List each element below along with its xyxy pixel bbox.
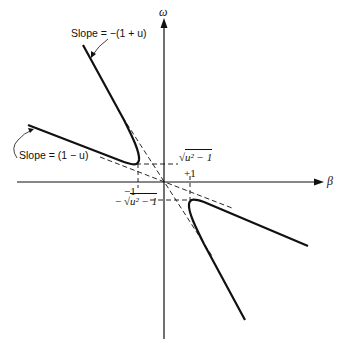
curve-upper-left: [28, 45, 139, 164]
omega-neg-label: − √u² − 1: [115, 196, 157, 207]
asymptote-steep: [118, 110, 212, 256]
leader-lower-arrow-icon: [28, 128, 34, 133]
tick-pos-one-label: +1: [184, 168, 196, 179]
beta-label: β: [327, 175, 333, 187]
leader-upper-arrow-icon: [91, 51, 96, 58]
slope-upper-label: Slope = −(1 + u): [71, 28, 147, 39]
omega-neg-prefix: −: [115, 195, 121, 207]
diagram-canvas: [0, 0, 342, 348]
omega-neg-value: u² − 1: [130, 193, 157, 207]
omega-axis-arrow-icon: [161, 18, 168, 28]
beta-axis-arrow-icon: [314, 179, 324, 186]
omega-pos-value: u² − 1: [185, 149, 212, 163]
omega-pos-label: √u² − 1: [179, 152, 212, 163]
curve-lower-right: [189, 200, 308, 320]
omega-label: ω: [159, 6, 167, 18]
slope-lower-label: Slope = (1 − u): [19, 150, 88, 161]
